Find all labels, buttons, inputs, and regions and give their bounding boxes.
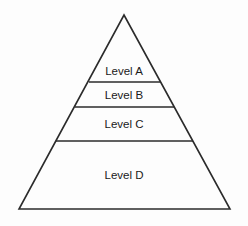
tier-label-level-a: Level A bbox=[105, 65, 143, 77]
pyramid-figure: Level A Level B Level C Level D bbox=[0, 0, 248, 226]
tier-label-level-c: Level C bbox=[105, 118, 144, 130]
tier-label-level-b: Level B bbox=[105, 89, 144, 101]
tier-label-level-d: Level D bbox=[105, 169, 144, 181]
pyramid-diagram: Level A Level B Level C Level D bbox=[0, 0, 248, 226]
